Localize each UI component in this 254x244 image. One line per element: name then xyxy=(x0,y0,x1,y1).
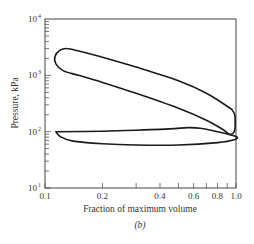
y-tick-exponent: 3 xyxy=(38,69,41,75)
y-tick-label: 10 xyxy=(28,70,38,80)
x-tick-label: 0.1 xyxy=(39,191,50,201)
x-axis-tick-labels: 0.10.20.40.60.81.0 xyxy=(39,191,242,201)
plot-frame xyxy=(45,19,236,188)
y-tick-exponent: 2 xyxy=(38,126,41,132)
y-tick-exponent: 1 xyxy=(38,182,41,188)
y-axis-ticks xyxy=(45,22,51,188)
low-pressure-loop xyxy=(56,128,238,146)
high-pressure-loop xyxy=(55,48,236,134)
x-tick-label: 0.4 xyxy=(154,191,166,201)
x-tick-label: 0.8 xyxy=(212,191,224,201)
y-tick-label: 10 xyxy=(28,127,38,137)
x-tick-label: 0.6 xyxy=(188,191,200,201)
x-axis-title: Fraction of maximum volume xyxy=(83,204,197,214)
pv-curves xyxy=(55,48,238,145)
x-tick-label: 1.0 xyxy=(230,191,242,201)
y-axis-tick-labels: 101102103104 xyxy=(28,13,41,193)
pv-diagram: 101102103104 0.10.20.40.60.81.0 Pressure… xyxy=(0,0,254,244)
y-tick-label: 10 xyxy=(28,183,38,193)
y-tick-label: 10 xyxy=(28,14,38,24)
figure-caption: (b) xyxy=(134,220,145,231)
y-tick-exponent: 4 xyxy=(38,13,41,19)
x-tick-label: 0.2 xyxy=(97,191,108,201)
y-axis-title: Pressure, kPa xyxy=(10,77,20,129)
x-axis-ticks xyxy=(45,183,236,188)
